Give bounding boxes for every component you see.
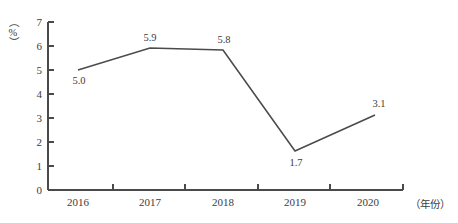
line-chart: （%） 7 6 5 4 3 2 1 0 (0, 0, 458, 223)
data-point-labels: 5.0 5.9 5.8 1.7 3.1 (72, 32, 385, 168)
x-axis-tick-label: 2020 (357, 196, 380, 208)
x-axis-ticks (113, 184, 403, 190)
x-axis-tick-labels: 2016 2017 2018 2019 2020 (67, 196, 380, 208)
y-axis-tick-label: 4 (37, 88, 43, 100)
data-point-label: 3.1 (372, 98, 385, 109)
data-point-label: 5.0 (72, 75, 85, 86)
y-axis-tick-label: 2 (37, 136, 43, 148)
x-axis-tick-label: 2018 (212, 196, 235, 208)
y-axis-tick-label: 0 (37, 184, 43, 196)
x-axis-group: 2016 2017 2018 2019 2020 （年份） (48, 184, 450, 210)
y-axis-group: 7 6 5 4 3 2 1 0 (37, 16, 55, 196)
x-axis-tick-label: 2016 (67, 196, 90, 208)
chart-canvas: 7 6 5 4 3 2 1 0 2016 2017 201 (0, 0, 458, 223)
y-axis-tick-label: 1 (37, 160, 43, 172)
y-axis-ticks (48, 22, 54, 166)
data-point-label: 5.9 (143, 32, 156, 43)
x-axis-tick-label: 2019 (284, 196, 307, 208)
y-axis-tick-labels: 7 6 5 4 3 2 1 0 (37, 16, 43, 196)
data-series-group (78, 48, 375, 151)
y-axis-tick-label: 7 (37, 16, 43, 28)
data-point-label: 1.7 (289, 157, 302, 168)
data-point-label: 5.8 (217, 34, 230, 45)
x-axis-tick-label: 2017 (139, 196, 162, 208)
data-series-line (78, 48, 375, 151)
y-axis-tick-label: 3 (37, 112, 43, 124)
x-axis-unit-label: （年份） (410, 198, 450, 210)
y-axis-tick-label: 6 (37, 40, 43, 52)
y-axis-tick-label: 5 (37, 64, 43, 76)
